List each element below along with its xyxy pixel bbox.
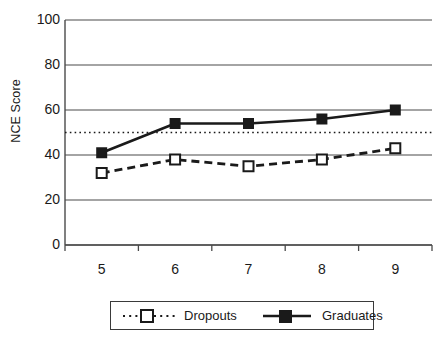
data-point-graduates-6 bbox=[171, 119, 180, 128]
legend-label-dropouts: Dropouts bbox=[184, 308, 237, 323]
data-point-dropouts-6 bbox=[170, 155, 180, 165]
data-point-dropouts-8 bbox=[317, 155, 327, 165]
data-point-dropouts-7 bbox=[244, 161, 254, 171]
x-tick-label-7: 7 bbox=[229, 262, 269, 276]
line-chart: NCE Score 020406080100 56789 Dropouts G bbox=[0, 0, 441, 350]
legend-swatch-dropouts bbox=[121, 308, 177, 324]
x-tick-label-6: 6 bbox=[155, 262, 195, 276]
data-point-dropouts-9 bbox=[390, 143, 400, 153]
legend-item-dropouts: Dropouts bbox=[121, 302, 237, 329]
x-tick-label-5: 5 bbox=[82, 262, 122, 276]
data-point-graduates-7 bbox=[244, 119, 253, 128]
y-axis-tick-labels: 020406080100 bbox=[10, 0, 60, 350]
data-point-graduates-9 bbox=[391, 106, 400, 115]
data-point-graduates-8 bbox=[317, 115, 326, 124]
y-tick-label-40: 40 bbox=[16, 147, 60, 161]
y-tick-label-80: 80 bbox=[16, 57, 60, 71]
y-tick-label-60: 60 bbox=[16, 102, 60, 116]
series-line-graduates bbox=[102, 110, 396, 153]
x-tick-label-8: 8 bbox=[302, 262, 342, 276]
y-tick-label-100: 100 bbox=[16, 12, 60, 26]
x-tick-label-9: 9 bbox=[375, 262, 415, 276]
chart-legend: Dropouts Graduates bbox=[110, 301, 374, 330]
y-tick-label-0: 0 bbox=[16, 237, 60, 251]
legend-swatch-graduates bbox=[259, 308, 315, 324]
data-point-graduates-5 bbox=[97, 148, 106, 157]
legend-item-graduates: Graduates bbox=[259, 302, 383, 329]
y-tick-label-20: 20 bbox=[16, 192, 60, 206]
legend-label-graduates: Graduates bbox=[322, 308, 383, 323]
plot-area bbox=[0, 0, 441, 350]
data-point-dropouts-5 bbox=[97, 168, 107, 178]
